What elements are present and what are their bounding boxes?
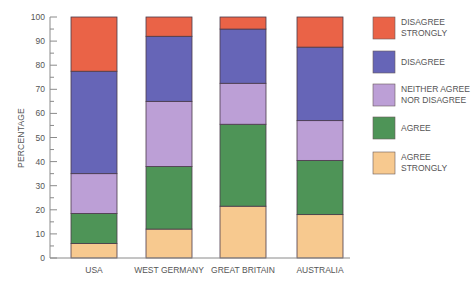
y-tick-label: 0 <box>40 253 45 263</box>
legend-label: STRONGLY <box>401 28 447 38</box>
bar-segment-agree <box>71 213 117 243</box>
bar-great-britain <box>220 17 266 258</box>
legend-label: NEITHER AGREE <box>401 84 470 94</box>
bar-segment-disagree-strongly <box>297 17 343 47</box>
bar-segment-agree-strongly <box>71 244 117 258</box>
legend-swatch <box>373 51 395 73</box>
y-tick-label: 70 <box>36 84 46 94</box>
bar-segment-agree-strongly <box>297 215 343 258</box>
y-tick-label: 30 <box>36 181 46 191</box>
legend-swatch <box>373 84 395 106</box>
bar-segment-disagree-strongly <box>146 17 192 36</box>
bar-segment-agree-strongly <box>220 206 266 258</box>
legend-label: AGREE <box>401 152 431 162</box>
bar-segment-neither-agree-nor-disagree <box>220 83 266 124</box>
bar-segment-disagree <box>71 71 117 173</box>
y-tick-label: 20 <box>36 205 46 215</box>
legend-swatch <box>373 17 395 39</box>
stacked-bar-chart: 0102030405060708090100 USAWEST GERMANYGR… <box>0 0 474 285</box>
bar-segment-agree <box>297 160 343 214</box>
bar-segment-disagree <box>297 47 343 121</box>
y-tick-label: 100 <box>31 12 45 22</box>
bar-segment-neither-agree-nor-disagree <box>146 101 192 166</box>
x-category-label: USA <box>85 265 103 275</box>
legend-swatch <box>373 152 395 174</box>
legend-label: NOR DISAGREE <box>401 95 467 105</box>
y-tick-label: 80 <box>36 60 46 70</box>
y-tick-label: 90 <box>36 36 46 46</box>
bar-australia <box>297 17 343 258</box>
bar-segment-disagree-strongly <box>71 17 117 71</box>
x-axis: USAWEST GERMANYGREAT BRITAINAUSTRALIA <box>50 258 350 275</box>
bar-segment-disagree <box>146 36 192 101</box>
legend-item-agree: AGREE <box>373 117 431 139</box>
legend-item-neither-agree-nor-disagree: NEITHER AGREENOR DISAGREE <box>373 84 470 106</box>
bar-segment-disagree <box>220 29 266 83</box>
bars <box>71 17 343 258</box>
bar-segment-agree <box>220 124 266 206</box>
bar-segment-neither-agree-nor-disagree <box>297 121 343 161</box>
legend-item-agree-strongly: AGREESTRONGLY <box>373 152 447 174</box>
y-axis: 0102030405060708090100 <box>31 12 57 263</box>
bar-segment-disagree-strongly <box>220 17 266 29</box>
legend-item-disagree: DISAGREE <box>373 51 445 73</box>
x-category-label: AUSTRALIA <box>296 265 344 275</box>
bar-segment-neither-agree-nor-disagree <box>71 174 117 214</box>
y-tick-label: 40 <box>36 157 46 167</box>
bar-segment-agree <box>146 166 192 229</box>
legend-label: STRONGLY <box>401 163 447 173</box>
bar-west-germany <box>146 17 192 258</box>
legend: DISAGREESTRONGLYDISAGREENEITHER AGREENOR… <box>373 17 470 174</box>
bar-segment-agree-strongly <box>146 229 192 258</box>
bar-usa <box>71 17 117 258</box>
y-tick-label: 50 <box>36 133 46 143</box>
legend-label: AGREE <box>401 123 431 133</box>
legend-swatch <box>373 117 395 139</box>
x-category-label: WEST GERMANY <box>134 265 204 275</box>
legend-label: DISAGREE <box>401 57 445 67</box>
y-tick-label: 10 <box>36 229 46 239</box>
x-category-label: GREAT BRITAIN <box>211 265 275 275</box>
legend-label: DISAGREE <box>401 17 445 27</box>
y-tick-label: 60 <box>36 108 46 118</box>
y-axis-title: PERCENTAGE <box>16 108 26 168</box>
legend-item-disagree-strongly: DISAGREESTRONGLY <box>373 17 447 39</box>
